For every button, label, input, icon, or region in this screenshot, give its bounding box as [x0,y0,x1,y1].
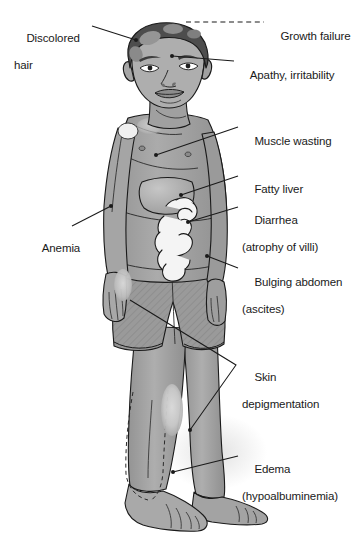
label-muscle-wasting-line1: Muscle wasting [254,135,331,147]
head [123,23,211,108]
nipple-right [185,152,191,157]
marker-fatty-liver [179,193,183,197]
label-bulging-abdomen: Bulging abdomen (ascites) [242,262,342,343]
nipple-left [139,146,145,151]
marker-discolored-hair [134,38,138,42]
label-anemia: Anemia [30,228,80,269]
label-apathy-irritability: Apathy, irritability [238,55,334,96]
label-apathy-irritability-line1: Apathy, irritability [250,69,335,81]
marker-apathy [170,54,174,58]
hair-patch-4 [187,30,201,39]
label-skin-depigmentation-line1: Skin [254,371,276,383]
label-discolored-hair-line2: hair [14,59,80,73]
shin-depigmentation-patch [161,384,183,436]
label-bulging-abdomen-line2: (ascites) [242,303,342,317]
label-diarrhea-line1: Diarrhea [254,214,297,226]
label-anemia-line1: Anemia [42,242,80,254]
marker-skin-depigmentation [188,428,192,432]
pupil-left [148,66,153,71]
label-bulging-abdomen-line1: Bulging abdomen [254,276,342,288]
hair-patch-2 [163,24,183,34]
arm-depigmentation-patch [114,269,132,301]
label-skin-depigmentation-line2: depigmentation [242,398,319,412]
marker-edema [171,470,175,474]
marker-anemia [109,204,113,208]
label-diarrhea-line2: (atrophy of villi) [242,241,318,255]
label-edema: Edema (hypoalbuminemia) [242,449,338,530]
marker-diarrhea [186,220,190,224]
leader-discolored-hair [92,26,136,40]
label-edema-line1: Edema [254,463,290,475]
shoulder-depigmentation-patch [118,123,138,139]
marker-bulging-abdomen [205,254,209,258]
pupil-right [186,64,191,69]
label-fatty-liver-line1: Fatty liver [254,183,303,195]
label-edema-line2: (hypoalbuminemia) [242,490,338,504]
label-discolored-hair-line1: Discolored [26,32,79,44]
label-discolored-hair: Discolored hair [14,18,80,99]
kwashiorkor-diagram: Discolored hair Growth failure Apathy, i… [0,0,356,547]
label-growth-failure: Growth failure [268,16,351,57]
label-skin-depigmentation: Skin depigmentation [242,357,319,438]
far-hand [207,279,227,325]
label-growth-failure-line1: Growth failure [280,30,350,42]
marker-muscle-wasting [154,153,158,157]
label-muscle-wasting: Muscle wasting [242,121,332,162]
